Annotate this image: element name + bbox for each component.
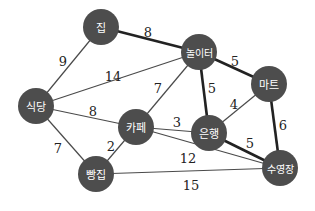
edge-weight-label: 2: [107, 139, 115, 154]
node-home: 집: [83, 9, 119, 45]
node-label: 카페: [126, 122, 146, 135]
weighted-graph: 891457546835721215 집놀이터마트식당카페은행빵집수영장: [0, 0, 315, 211]
edge-weight-label: 8: [89, 104, 97, 119]
edge-weight-label: 4: [230, 97, 238, 112]
edge-weight-label: 15: [183, 178, 200, 193]
edge-weight-label: 5: [231, 54, 239, 69]
edge-weight-label: 7: [54, 141, 62, 156]
edge-weight-label: 3: [173, 115, 181, 130]
edge-weight-label: 14: [105, 69, 122, 84]
node-label: 은행: [199, 128, 219, 141]
node-label: 빵집: [86, 169, 106, 182]
node-label: 마트: [259, 79, 279, 92]
node-pool: 수영장: [262, 150, 298, 186]
edge-weight-label: 8: [144, 25, 152, 40]
node-bakery: 빵집: [78, 156, 114, 192]
node-label: 놀이터: [186, 48, 213, 59]
edge-weight-label: 6: [279, 118, 287, 133]
node-label: 수영장: [267, 164, 294, 175]
edge-weight-label: 7: [154, 81, 162, 96]
edges-layer: [36, 27, 280, 174]
node-playground: 놀이터: [181, 34, 217, 70]
edge-weight-label: 5: [246, 136, 254, 151]
edge-weight-label: 5: [208, 81, 216, 96]
edge-weight-label: 12: [180, 151, 197, 166]
node-label: 식당: [26, 101, 46, 114]
node-restaurant: 식당: [18, 88, 54, 124]
node-bank: 은행: [191, 115, 227, 151]
edge-bakery-pool: [96, 168, 280, 174]
node-label: 집: [96, 22, 106, 35]
node-cafe: 카페: [118, 109, 154, 145]
node-mart: 마트: [251, 66, 287, 102]
edge-weight-label: 9: [59, 54, 67, 69]
